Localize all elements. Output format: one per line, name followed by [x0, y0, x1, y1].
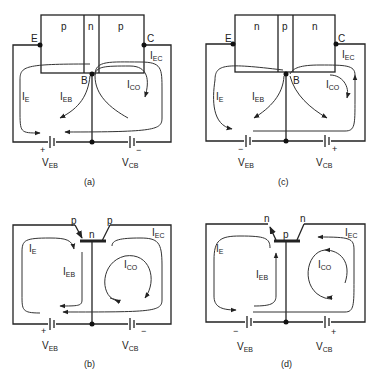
ieb-label: IEB	[63, 266, 75, 278]
iec-label: IEC	[152, 227, 165, 239]
veb-label: VEB	[237, 341, 253, 353]
plus-sign: +	[331, 327, 336, 337]
vcb-label: VCB	[316, 341, 333, 353]
minus-sign: −	[141, 326, 146, 336]
vcb-label: VCB	[122, 157, 139, 169]
collector-type-label: p	[107, 215, 113, 226]
caption: (b)	[84, 359, 95, 369]
emitter-type-label: p	[71, 215, 77, 226]
iec-label: IEC	[342, 49, 355, 61]
veb-label: VEB	[238, 157, 254, 169]
caption: (d)	[281, 359, 292, 369]
minus-sign: −	[238, 144, 243, 154]
region-label: n	[88, 21, 94, 32]
base-label: B	[81, 75, 88, 86]
veb-label: VEB	[42, 157, 58, 169]
collector-label: C	[338, 33, 345, 44]
ieb-label: IEB	[256, 269, 268, 281]
region-label: p	[61, 21, 67, 32]
caption: (a)	[84, 177, 95, 187]
minus-sign: −	[136, 145, 141, 155]
plus-sign: +	[332, 144, 337, 154]
ie-label: IE	[29, 243, 37, 255]
ico-label: ICO	[124, 259, 138, 271]
base-type-label: p	[283, 229, 289, 240]
veb-label: VEB	[42, 340, 58, 352]
emitter-label: E	[225, 33, 232, 44]
region-label: n	[254, 21, 260, 32]
ie-label: IE	[216, 91, 224, 103]
ico-label: ICO	[326, 79, 340, 91]
transistor-current-diagram: p n p E C B + − VEB VCB (a) IE IEB ICO	[0, 0, 381, 383]
base-type-label: n	[89, 229, 95, 240]
collector-label: C	[147, 33, 154, 44]
emitter-arrow	[75, 225, 82, 238]
ieb-label: IEB	[252, 91, 264, 103]
ie-label: IE	[216, 243, 224, 255]
ico-label: ICO	[318, 259, 332, 271]
emitter-arrow	[270, 227, 276, 240]
emitter-label: E	[31, 33, 38, 44]
vcb-label: VCB	[316, 157, 333, 169]
ieb-label: IEB	[60, 91, 72, 103]
caption: (c)	[278, 177, 289, 187]
panel-b: p n p + − VEB VCB (b) IE IEB ICO IEC	[13, 215, 171, 369]
minus-sign: −	[233, 326, 238, 336]
region-label: p	[282, 21, 288, 32]
plus-sign: +	[40, 145, 45, 155]
panel-a: p n p E C B + − VEB VCB (a) IE IEB ICO	[13, 15, 171, 187]
panel-c: n p n E C B − + VEB VCB (c) IE IEB ICO I…	[206, 15, 365, 187]
ie-label: IE	[22, 91, 30, 103]
collector-type-label: n	[300, 213, 306, 224]
emitter-type-label: n	[264, 213, 270, 224]
vcb-label: VCB	[122, 340, 139, 352]
region-label: n	[312, 21, 318, 32]
iec-label: IEC	[150, 50, 163, 62]
plus-sign: +	[41, 326, 46, 336]
region-label: p	[118, 21, 124, 32]
iec-label: IEC	[345, 227, 358, 239]
panel-d: n p n − + VEB VCB (d) IE IEB ICO IEC	[206, 213, 365, 369]
ico-label: ICO	[127, 79, 141, 91]
base-label: B	[293, 75, 300, 86]
